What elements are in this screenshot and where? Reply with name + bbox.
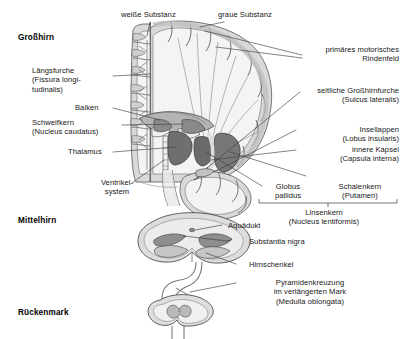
label-thalamus: Thalamus bbox=[68, 147, 102, 156]
label-linsenkern: Linsenkern (Nucleus lentiformis) bbox=[249, 208, 399, 227]
third-ventricle bbox=[163, 136, 168, 170]
label-innere-kapsel: innere Kapsel (Capsula interna) bbox=[269, 145, 399, 164]
cerebral-aqueduct bbox=[189, 228, 194, 232]
label-aquaedukt: Aquädukt bbox=[228, 221, 261, 230]
label-weisse-substanz: weiße Substanz bbox=[121, 10, 176, 19]
label-graue-substanz: graue Substanz bbox=[218, 10, 272, 19]
label-schalenkern-putamen: Schalenkern (Putamen) bbox=[322, 182, 398, 201]
label-primaeres-motorisches-rindenfeld: primäres motorisches Rindenfeld bbox=[259, 45, 399, 64]
leader-pyramidenkreuzung bbox=[190, 283, 236, 292]
central-canal bbox=[178, 310, 180, 312]
label-globus-pallidus: Globus pallidus bbox=[264, 182, 312, 201]
label-insellappen: Insellappen (Lobus insularis) bbox=[269, 125, 399, 144]
region-label-cerebrum: Großhirn bbox=[18, 33, 54, 42]
label-substantia-nigra: Substantia nigra bbox=[249, 237, 305, 246]
label-seitliche-grosshirnfurche: seitliche Großhirnfurche (Sulcus lateral… bbox=[249, 86, 399, 105]
diagram-canvas: Großhirn Mittelhirn Rückenmark weiße Sub… bbox=[0, 0, 403, 339]
label-hirnschenkel: Hirnschenkel bbox=[249, 260, 294, 269]
region-label-spinal-cord: Rückenmark bbox=[18, 308, 69, 317]
cerebrum-section bbox=[131, 21, 272, 219]
label-balken: Balken bbox=[75, 103, 99, 112]
label-laengsfurche: Längsfurche (Fissura longi- tudinalis) bbox=[32, 66, 81, 94]
label-schweifkern: Schweifkern (Nucleus caudatus) bbox=[32, 118, 98, 137]
spinal-cord-section bbox=[148, 295, 213, 339]
label-pyramidenkreuzung: Pyramidenkreuzung im verlängerten Mark (… bbox=[240, 278, 380, 306]
label-ventrikelsystem: Ventrikel- system bbox=[98, 178, 136, 197]
region-label-midbrain: Mittelhirn bbox=[18, 216, 56, 225]
